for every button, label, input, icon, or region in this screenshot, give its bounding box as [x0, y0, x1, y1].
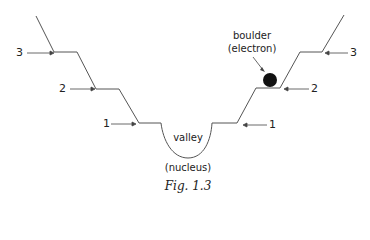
level-label-right-2: 2: [311, 83, 318, 94]
level-label-left-3: 3: [16, 47, 23, 58]
boulder-electron: [263, 73, 277, 87]
electron-label: (electron): [222, 44, 282, 54]
nucleus-label: (nucleus): [155, 163, 221, 173]
level-label-left-2: 2: [59, 83, 66, 94]
boulder-label: boulder: [222, 31, 282, 41]
level-label-right-3: 3: [350, 47, 357, 58]
level-label-left-1: 1: [103, 118, 110, 129]
arrows-right: [243, 51, 348, 127]
arrows-left: [27, 51, 136, 126]
figure-caption: Fig. 1.3: [155, 180, 221, 192]
boulder-pointer-head: [260, 67, 265, 72]
valley-label: valley: [160, 133, 216, 143]
level-label-right-1: 1: [269, 119, 276, 130]
